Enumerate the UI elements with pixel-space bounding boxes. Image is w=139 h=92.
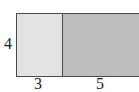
- height-label: 4: [4, 36, 12, 52]
- left-rectangle-section: [16, 13, 64, 77]
- left-width-label: 3: [34, 76, 42, 92]
- right-width-label: 5: [96, 76, 104, 92]
- right-rectangle-section: [62, 13, 139, 77]
